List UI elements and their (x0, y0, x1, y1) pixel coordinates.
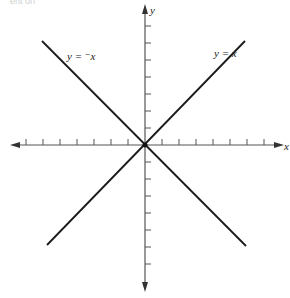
x-axis-label: x (283, 140, 289, 152)
y-axis-up-arrow-icon (142, 4, 148, 14)
origin-point (143, 143, 148, 148)
coordinate-plane: x y y = x y = ⁻x (0, 0, 290, 298)
label-y-equals-x: y = x (213, 47, 237, 59)
x-axis-right-arrow-icon (274, 142, 284, 148)
x-axis-left-arrow-icon (10, 142, 20, 148)
label-y-equals-negative-x: y = ⁻x (66, 50, 96, 62)
y-axis-label: y (149, 4, 155, 16)
y-axis-down-arrow-icon (142, 282, 148, 292)
